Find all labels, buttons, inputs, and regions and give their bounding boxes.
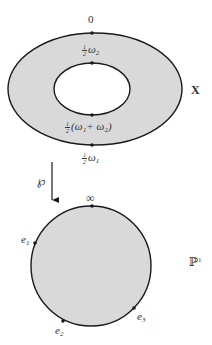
omega-symbol: ω (88, 151, 96, 163)
fraction-half: 12 (82, 152, 87, 165)
inner-ellipse (54, 63, 130, 115)
subscript: 2 (60, 330, 64, 338)
label-e3: e3 (137, 311, 145, 324)
point-e2 (61, 319, 65, 323)
torus-label-X: X (191, 84, 200, 96)
label-zero: 0 (88, 14, 94, 25)
point-e1 (33, 241, 37, 245)
fraction-half: 12 (82, 44, 87, 57)
label-infinity: ∞ (86, 192, 95, 204)
subscript: 2 (96, 49, 100, 57)
projective-line-disk (31, 204, 151, 326)
point-0 (90, 31, 94, 35)
sphere-label-P1: ℙ1 (189, 256, 202, 268)
label-e2: e2 (55, 325, 63, 338)
superscript: 1 (198, 256, 202, 264)
point-half-omega1 (90, 143, 94, 147)
label-half-omega2: 12ω2 (82, 44, 99, 57)
fraction-half: 12 (65, 121, 70, 134)
point-half-omega2 (90, 61, 94, 65)
point-half-omega1-plus-omega2 (90, 113, 94, 117)
diagram-canvas (0, 0, 212, 345)
subscript: 3 (142, 316, 146, 324)
omega-symbol: ω (88, 43, 96, 55)
label-e1: e1 (21, 234, 29, 247)
label-half-omega1: 12ω1 (82, 152, 99, 165)
subscript: 1 (96, 157, 100, 165)
weierstrass-p-label: ℘ (37, 175, 45, 187)
projective-symbol: ℙ (189, 255, 198, 269)
omega-sum: (ω₁+ ω₂) (71, 120, 112, 132)
point-e3 (132, 306, 136, 310)
subscript: 1 (26, 239, 30, 247)
label-half-omega1-plus-omega2: 12(ω₁+ ω₂) (65, 121, 112, 134)
